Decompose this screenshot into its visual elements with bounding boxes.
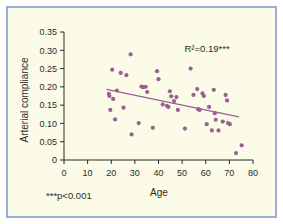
scatter-point bbox=[189, 66, 193, 70]
x-tick-label: 30 bbox=[130, 168, 140, 178]
scatter-point bbox=[113, 117, 117, 121]
x-tick-label: 70 bbox=[224, 168, 234, 178]
scatter-point bbox=[129, 132, 133, 136]
x-tick-label: 20 bbox=[106, 168, 116, 178]
scatter-point bbox=[221, 120, 225, 124]
scatter-point bbox=[111, 97, 115, 101]
scatter-plot: 01020304050607080 00.050.100.150.200.250… bbox=[0, 0, 283, 224]
scatter-point bbox=[212, 88, 216, 92]
scatter-point bbox=[137, 121, 141, 125]
regression-line bbox=[107, 89, 239, 116]
scatter-point bbox=[124, 73, 128, 77]
scatter-point bbox=[129, 52, 133, 56]
x-tick-label: 60 bbox=[201, 168, 211, 178]
scatter-point bbox=[151, 126, 155, 130]
y-tick-label: 0.20 bbox=[39, 82, 57, 92]
scatter-point bbox=[156, 77, 160, 81]
scatter-point bbox=[207, 105, 211, 109]
scatter-point bbox=[119, 71, 123, 75]
scatter-point bbox=[240, 143, 244, 147]
y-tick-label: 0.15 bbox=[39, 100, 57, 110]
scatter-point bbox=[214, 118, 218, 122]
x-tick-label: 0 bbox=[61, 168, 66, 178]
y-tick-label: 0 bbox=[52, 155, 57, 165]
y-tick-label: 0.05 bbox=[39, 137, 57, 147]
scatter-point bbox=[205, 122, 209, 126]
scatter-point bbox=[191, 93, 195, 97]
scatter-point bbox=[155, 69, 159, 73]
scatter-point bbox=[107, 94, 111, 98]
scatter-point bbox=[195, 87, 199, 91]
scatter-point bbox=[168, 89, 172, 93]
scatter-point bbox=[174, 95, 178, 99]
x-tick-label: 80 bbox=[248, 168, 258, 178]
y-axis-title: Arterial compliance bbox=[19, 57, 30, 142]
scatter-point bbox=[108, 108, 112, 112]
x-tick-label: 40 bbox=[153, 168, 163, 178]
y-tick-label: 0.10 bbox=[39, 119, 57, 129]
y-tick-label: 0.35 bbox=[39, 27, 57, 37]
scatter-point bbox=[216, 128, 220, 132]
scatter-point bbox=[110, 68, 114, 72]
scatter-point bbox=[223, 93, 227, 97]
r-squared-annotation: R²=0.19*** bbox=[184, 43, 229, 54]
x-axis-title: Age bbox=[150, 187, 168, 198]
scatter-point bbox=[144, 85, 148, 89]
y-tick-label: 0.25 bbox=[39, 64, 57, 74]
figure-container: 01020304050607080 00.050.100.150.200.250… bbox=[0, 0, 283, 224]
scatter-point bbox=[145, 90, 149, 94]
scatter-point bbox=[183, 126, 187, 130]
scatter-point bbox=[121, 106, 125, 110]
scatter-point bbox=[169, 94, 173, 98]
scatter-point bbox=[228, 122, 232, 126]
scatter-point bbox=[210, 128, 214, 132]
scatter-point bbox=[166, 105, 170, 109]
scatter-point bbox=[202, 94, 206, 98]
y-tick-labels: 00.050.100.150.200.250.300.35 bbox=[39, 27, 57, 165]
scatter-point bbox=[234, 151, 238, 155]
significance-footnote: ***p<0.001 bbox=[46, 190, 92, 201]
scatter-point bbox=[225, 98, 229, 102]
x-tick-label: 10 bbox=[83, 168, 93, 178]
scatter-point bbox=[176, 108, 180, 112]
y-tick-label: 0.30 bbox=[39, 46, 57, 56]
x-tick-labels: 01020304050607080 bbox=[61, 168, 258, 178]
x-tick-label: 50 bbox=[177, 168, 187, 178]
scatter-point bbox=[161, 102, 165, 106]
